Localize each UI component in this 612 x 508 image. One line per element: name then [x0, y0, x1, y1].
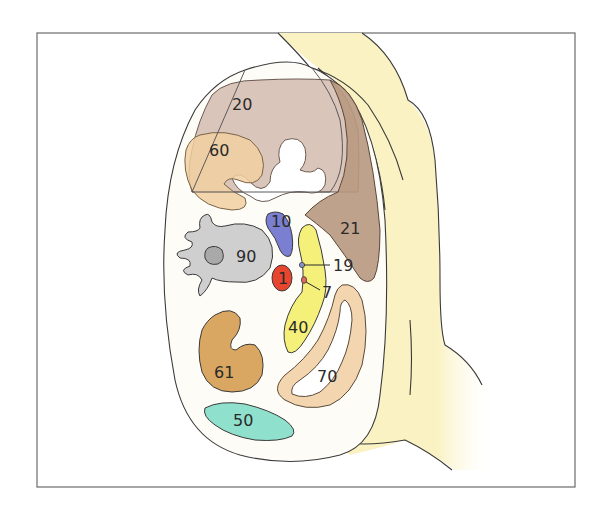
- label-60: 60: [209, 141, 229, 160]
- label-1: 1: [278, 269, 288, 288]
- label-50: 50: [233, 411, 253, 430]
- label-10: 10: [271, 212, 291, 231]
- label-20: 20: [232, 95, 252, 114]
- label-40: 40: [288, 318, 308, 337]
- label-90: 90: [236, 247, 256, 266]
- label-61: 61: [214, 363, 234, 382]
- organ-90-core: [205, 246, 224, 264]
- label-21: 21: [340, 219, 360, 238]
- label-19: 19: [333, 256, 353, 275]
- label-7: 7: [322, 283, 332, 302]
- diagram-canvas: 20 21 60 10 90 1 19 7 40 61 70 50: [0, 0, 612, 508]
- cross-section-diagram: 20 21 60 10 90 1 19 7 40 61 70 50: [0, 0, 612, 508]
- label-70: 70: [317, 367, 337, 386]
- vessel-19: [299, 262, 304, 267]
